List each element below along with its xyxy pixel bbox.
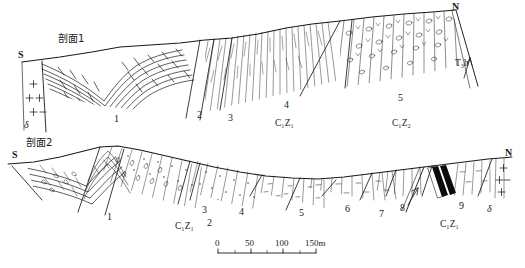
section2-title: 剖面2 [26,138,52,148]
section2-unit2-3-conglomerate [96,147,202,215]
section1-fault-label: T₃b [455,59,469,69]
geological-cross-section-figure: 剖面1 S N 1 2 3 4 5 C₁Z₁ C₁Z₂ T₃b δ 剖面2 S … [0,0,525,268]
section2-cardinal-south: S [12,150,18,160]
section2-unit-label-8: 8 [400,203,405,213]
section1-cardinal-north: N [452,2,459,12]
scale-tick-50: 50 [245,239,254,248]
section2-unit-label-1: 1 [107,212,112,222]
section1-cardinal-south: S [18,50,24,60]
section2-intrusive-crosses [496,165,510,196]
section2-unit5-siltstone [258,175,324,212]
section1-unit-label-4: 4 [284,100,289,110]
scale-bar [218,249,316,253]
section2-unit1-folded-strata [26,154,124,204]
section2-unit-label-4: 4 [239,207,244,217]
scale-tick-150m: 150m [305,239,326,248]
section2-unit6-7-shale [308,171,396,206]
section2-unit-label-2: 2 [207,218,212,228]
section1-intrusive-symbol: δ [24,120,29,130]
section2-cardinal-north: N [505,148,512,158]
section1-unit-label-1: 1 [114,114,119,124]
section1-unit-label-3: 3 [228,113,233,123]
section2-unit-label-7: 7 [379,209,384,219]
section1-unit5-conglomerate [336,10,457,88]
section2-unit-label-5: 5 [299,208,304,218]
section1-strat-label-left: C₁Z₁ [275,119,294,129]
section2-ore-bands [432,165,456,197]
section1-topography [22,10,456,62]
section2-strat-label-right: C₁Z₁ [440,220,459,230]
section2-contacts [12,147,492,215]
section1-title: 剖面1 [58,34,84,44]
section2-unit-label-3: 3 [202,205,207,215]
section2-unit-label-9: 9 [459,201,464,211]
section1-unit-label-5: 5 [398,93,403,103]
section1-strat-label-right: C₁Z₂ [392,119,411,129]
section2-strat-label-left: C₁Z₁ [175,222,194,232]
scale-tick-100: 100 [275,239,289,248]
section2-unit-label-6: 6 [345,204,350,214]
section2-intrusive-symbol: δ [487,204,492,214]
scale-tick-0: 0 [215,239,220,248]
section1-unit-label-2: 2 [197,110,202,120]
